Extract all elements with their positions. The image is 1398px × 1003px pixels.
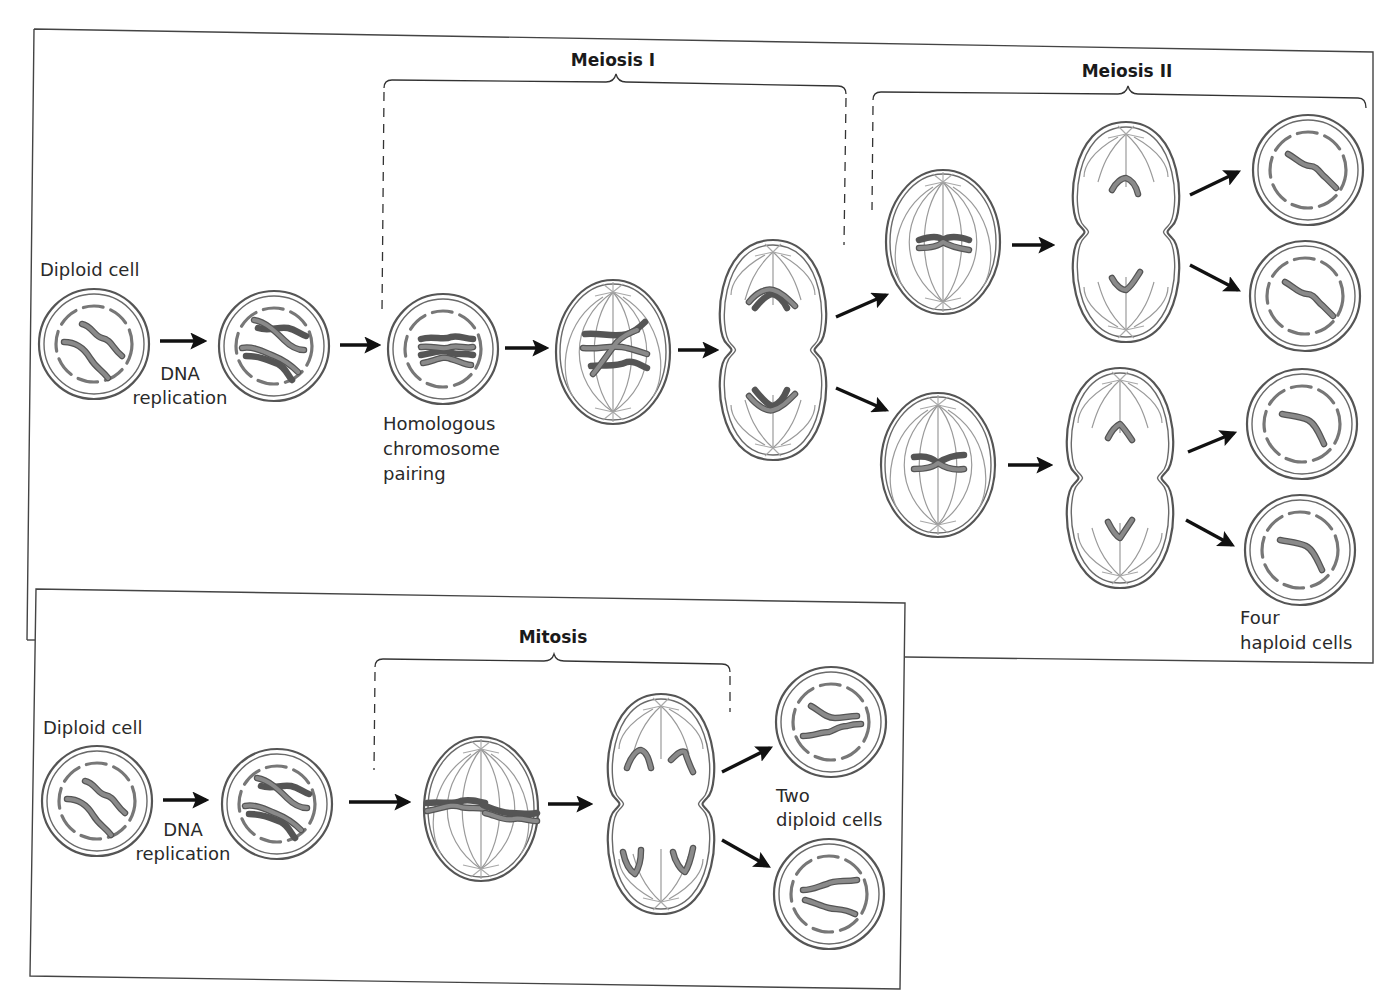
dna-replication-label-2: replication (133, 387, 228, 408)
mitosis-dna-replication-label-1: DNA (163, 819, 203, 840)
meiosis-2-title: Meiosis II (1082, 61, 1173, 81)
two-diploid-label-2: diploid cells (776, 809, 882, 830)
four-haploid-label-2: haploid cells (1240, 632, 1352, 653)
meiosis-panel: Meiosis I Meiosis II Diploid cell DNA re… (27, 29, 1373, 663)
haploid-cell-2 (1250, 241, 1360, 351)
diploid-cell-label: Diploid cell (40, 259, 139, 280)
mitosis-dna-replication-label-2: replication (136, 843, 231, 864)
meiosis-mitosis-diagram: Meiosis I Meiosis II Diploid cell DNA re… (0, 0, 1398, 1003)
replicated-cell (219, 291, 329, 401)
mitosis-panel-border (30, 589, 905, 989)
pairing-label-3: pairing (383, 463, 446, 484)
two-diploid-label-1: Two (775, 785, 810, 806)
mitosis-diploid-cell-label: Diploid cell (43, 717, 142, 738)
meiosis-panel-border (27, 29, 1373, 663)
meiosis-1-title: Meiosis I (571, 50, 655, 70)
four-haploid-label-1: Four (1240, 607, 1280, 628)
mitosis-title: Mitosis (519, 627, 588, 647)
pairing-label-1: Homologous (383, 413, 495, 434)
pairing-label-2: chromosome (383, 438, 500, 459)
homologous-pairing-cell (388, 294, 498, 404)
mitosis-panel: Mitosis Diploid cell DNA replication (30, 589, 905, 989)
dna-replication-label-1: DNA (160, 363, 200, 384)
diploid-cell (39, 289, 149, 399)
